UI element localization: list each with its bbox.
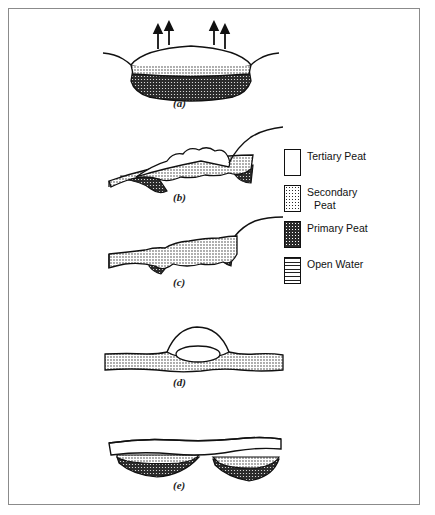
legend-swatch-open-water [284, 257, 301, 284]
panel-a-ground-right [251, 53, 279, 65]
panel-b: (b) [101, 121, 286, 209]
panel-b-cross-section [101, 121, 286, 209]
panel-d-open-water-lens [176, 346, 220, 362]
panel-a-label: (a) [173, 97, 186, 109]
panel-e-label: (e) [173, 479, 185, 491]
legend-swatch-tertiary-peat [284, 149, 301, 176]
panel-a-cross-section [101, 21, 281, 111]
panel-c: (c) [101, 214, 286, 296]
panel-e: (e) [101, 427, 286, 499]
legend-item-tertiary-peat: Tertiary Peat [284, 149, 414, 176]
panel-b-label: (b) [173, 191, 186, 203]
panel-c-secondary-peat [109, 236, 237, 269]
legend-label-secondary-peat: SecondaryPeat [307, 185, 357, 211]
panel-c-ground-slope [235, 217, 283, 236]
legend-item-open-water: Open Water [284, 257, 414, 284]
panel-a-tertiary-peat-dome [131, 46, 251, 65]
legend-label-open-water: Open Water [307, 257, 363, 271]
legend: Tertiary Peat SecondaryPeat Primary Peat… [284, 149, 414, 293]
figure-frame: (a) (b) [8, 8, 420, 505]
panel-a: (a) [101, 21, 281, 111]
panel-d: (d) [101, 314, 286, 396]
legend-item-secondary-peat: SecondaryPeat [284, 185, 414, 212]
panel-d-cross-section [101, 314, 286, 396]
legend-label-secondary-peat-line2: Peat [307, 199, 357, 212]
legend-label-secondary-peat-line1: Secondary [307, 186, 357, 198]
panel-c-cross-section [101, 214, 286, 296]
panel-c-label: (c) [173, 276, 185, 288]
panel-e-cross-section [101, 427, 286, 499]
legend-swatch-primary-peat [284, 221, 301, 248]
panel-d-label: (d) [173, 376, 186, 388]
legend-swatch-secondary-peat [284, 185, 301, 212]
panel-a-ground-left [103, 53, 131, 65]
panel-a-arrows [154, 22, 229, 49]
legend-label-primary-peat: Primary Peat [307, 221, 368, 235]
legend-item-primary-peat: Primary Peat [284, 221, 414, 248]
legend-label-tertiary-peat: Tertiary Peat [307, 149, 366, 163]
figure-root: (a) (b) [0, 0, 435, 515]
